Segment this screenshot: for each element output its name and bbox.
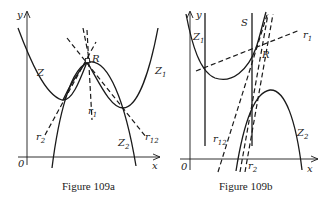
label-Z2: Z2: [117, 137, 130, 151]
y-axis-label: y: [195, 9, 202, 20]
label-r12: r12: [213, 133, 227, 147]
caption-109a: Figure 109a: [62, 180, 115, 192]
figure-109a: y x 0 Z R Z1 Z2 r1 r2 r12 Figure 109a: [16, 9, 166, 192]
origin-label: 0: [18, 158, 25, 169]
label-R: R: [261, 49, 270, 60]
point-R: [86, 59, 90, 63]
label-R: R: [91, 53, 100, 64]
x-axis-label: x: [152, 160, 158, 171]
label-Z1: Z1: [154, 65, 166, 79]
label-Z: Z: [36, 67, 45, 78]
label-r1: r1: [88, 105, 97, 119]
curve-Z: [18, 28, 87, 100]
label-r1: r1: [303, 29, 312, 43]
label-Z1: Z1: [192, 31, 204, 45]
line-r12: [67, 38, 146, 137]
line-r12: [218, 15, 267, 172]
x-axis-label: x: [307, 163, 313, 174]
label-Z2: Z2: [296, 127, 309, 141]
y-axis-label: y: [16, 9, 23, 20]
curve-Z1: [186, 12, 266, 79]
label-r2: r2: [248, 160, 258, 174]
caption-109b: Figure 109b: [219, 180, 273, 192]
curve-lens-left: [63, 62, 86, 100]
label-S: S: [241, 17, 248, 28]
label-r2: r2: [36, 131, 46, 145]
curve-Z1: [87, 28, 158, 108]
origin-label: 0: [181, 161, 188, 172]
figure-109b: y x 0 S R Z1 Z2 r1 r2 r12 Figure 109b: [180, 9, 318, 192]
figure-canvas: y x 0 Z R Z1 Z2 r1 r2 r12 Figure 109a y …: [0, 0, 325, 201]
label-r12: r12: [145, 131, 159, 145]
